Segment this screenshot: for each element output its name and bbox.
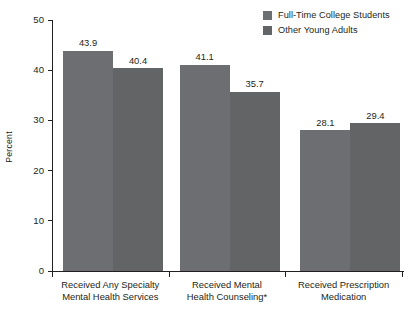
x-axis-category-label-2: Received MentalHealth Counseling* (161, 279, 294, 303)
x-axis-separator-1 (52, 272, 53, 277)
y-axis-title: Percent (2, 112, 16, 182)
bar-series-2-category-3: 29.4 (350, 123, 400, 271)
legend-item-full-time-college-students: Full-Time College Students (263, 11, 390, 20)
x-axis-category-label-3: Received PrescriptionMedication (277, 279, 410, 303)
y-tick-label: 30 (33, 113, 44, 127)
y-axis-title-text: Percent (4, 131, 14, 163)
bar-value-label: 28.1 (316, 118, 334, 127)
y-tick-label: 20 (33, 164, 44, 178)
bar-value-label: 40.4 (129, 56, 147, 65)
y-tick-label: 10 (33, 214, 44, 228)
bar-series-1-category-1: 43.9 (63, 51, 113, 271)
legend-swatch-series-1 (263, 11, 272, 20)
bar-value-label: 43.9 (79, 38, 97, 47)
x-axis-line (52, 271, 404, 272)
x-axis-separator-3 (285, 272, 286, 277)
plot-area: 43.940.441.135.728.129.4 (52, 20, 402, 271)
x-axis-label-line: Health Counseling* (161, 291, 294, 303)
bar-value-label: 29.4 (366, 111, 384, 120)
bar-value-label: 41.1 (196, 52, 214, 61)
bar-series-1-category-3: 28.1 (300, 130, 350, 271)
bar-series-1-category-2: 41.1 (180, 65, 230, 271)
bar-chart: Full-Time College Students Other Young A… (0, 0, 414, 322)
x-axis-label-line: Medication (277, 291, 410, 303)
bar-series-2-category-2: 35.7 (230, 92, 280, 271)
x-axis-category-label-1: Received Any SpecialtyMental Health Serv… (44, 279, 177, 303)
x-axis-label-line: Received Mental (161, 279, 294, 291)
legend-label-series-1: Full-Time College Students (278, 11, 390, 20)
bar-series-2-category-1: 40.4 (113, 68, 163, 271)
x-axis-separator-4 (402, 272, 403, 277)
y-tick-label: 0 (39, 264, 44, 278)
x-axis-label-line: Received Prescription (277, 279, 410, 291)
x-axis-separator-2 (169, 272, 170, 277)
x-axis-label-line: Mental Health Services (44, 291, 177, 303)
bar-value-label: 35.7 (246, 79, 264, 88)
y-tick-label: 50 (33, 13, 44, 27)
y-tick-label: 40 (33, 63, 44, 77)
x-axis-label-line: Received Any Specialty (44, 279, 177, 291)
